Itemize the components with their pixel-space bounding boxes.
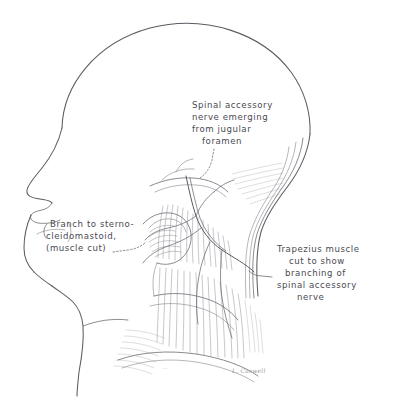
- label-trapezius-line-1: cut to show: [289, 256, 345, 266]
- label-scm-line-1: cleidomastoid,: [46, 231, 117, 241]
- anatomical-illustration: Spinal accessory nerve emerging from jug…: [0, 0, 394, 397]
- label-scm-line-2: (muscle cut): [46, 243, 106, 253]
- label-trapezius-line-4: nerve: [297, 292, 324, 302]
- label-trapezius-line-3: spinal accessory: [277, 280, 357, 290]
- label-spinal-accessory-line-3: foramen: [202, 136, 242, 146]
- label-spinal-accessory-line-2: from jugular: [192, 124, 251, 134]
- label-spinal-accessory-line-1: nerve emerging: [192, 112, 268, 122]
- label-trapezius-line-0: Trapezius muscle: [276, 244, 360, 254]
- label-scm-line-0: Branch to sterno-: [50, 219, 134, 229]
- signature-primary: L. Caswell: [231, 367, 266, 374]
- signature-faint: —: [162, 364, 168, 371]
- signature-secondary: —: [162, 364, 168, 371]
- label-trapezius-line-2: branching of: [285, 268, 346, 278]
- label-spinal-accessory-line-0: Spinal accessory: [192, 100, 273, 110]
- signature-artist: L. Caswell: [231, 367, 266, 374]
